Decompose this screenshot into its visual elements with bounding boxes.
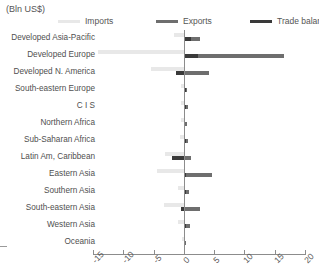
chart-row: C I S: [0, 98, 319, 115]
chart-row: Developed Asia-Pacific: [0, 30, 319, 47]
category-label: Developed Asia-Pacific: [0, 32, 95, 44]
chart-legend: ImportsExportsTrade balance: [58, 14, 316, 28]
chart-row: South-eastern Europe: [0, 81, 319, 98]
category-label: Oceania: [0, 236, 95, 248]
legend-item-trade-balance[interactable]: Trade balance: [250, 14, 319, 28]
legend-item-imports[interactable]: Imports: [58, 14, 113, 28]
legend-item-exports[interactable]: Exports: [156, 14, 212, 28]
bar-trade-balance: [184, 54, 199, 58]
chart-row: Developed Europe: [0, 47, 319, 64]
legend-swatch-icon: [250, 20, 272, 23]
legend-swatch-icon: [58, 20, 80, 23]
category-label: Eastern Asia: [0, 168, 95, 180]
bar-exports: [184, 173, 212, 177]
chart-row: Oceania: [0, 234, 319, 251]
chart-row: Northern Africa: [0, 115, 319, 132]
category-label: Developed N. America: [0, 66, 95, 78]
legend-swatch-icon: [156, 20, 178, 23]
chart-row: Western Asia: [0, 217, 319, 234]
axis-corner-stub: [0, 246, 7, 247]
chart-row: Sub-Saharan Africa: [0, 132, 319, 149]
category-label: Developed Europe: [0, 49, 95, 61]
bar-trade-balance: [172, 156, 184, 160]
x-tick-label: 0: [181, 255, 191, 265]
bar-exports: [184, 156, 191, 160]
category-label: C I S: [0, 100, 95, 112]
category-label: Southern Asia: [0, 185, 95, 197]
bar-imports: [157, 169, 184, 173]
zero-reference-line: [184, 30, 185, 254]
chart-row: South-eastern Asia: [0, 200, 319, 217]
category-label: South-eastern Europe: [0, 83, 95, 95]
bar-exports: [184, 54, 285, 58]
plot-area: Developed Asia-PacificDeveloped EuropeDe…: [0, 30, 319, 252]
bar-imports: [174, 33, 184, 37]
legend-label: Exports: [183, 16, 212, 26]
unit-label: (Bln US$): [6, 4, 45, 14]
category-label: South-eastern Asia: [0, 202, 95, 214]
chart-row: Eastern Asia: [0, 166, 319, 183]
chart-row: Developed N. America: [0, 64, 319, 81]
bar-exports: [184, 207, 200, 211]
chart-row: Southern Asia: [0, 183, 319, 200]
legend-label: Trade balance: [277, 16, 319, 26]
category-label: Sub-Saharan Africa: [0, 134, 95, 146]
bar-trade-balance: [176, 71, 184, 75]
bar-exports: [184, 71, 209, 75]
category-label: Northern Africa: [0, 117, 95, 129]
category-label: Latin Am, Caribbean: [0, 151, 95, 163]
x-tick-label: 5: [211, 255, 221, 265]
bar-imports: [98, 50, 184, 54]
category-label: Western Asia: [0, 219, 95, 231]
x-axis: -15-10-505101520: [0, 254, 319, 280]
chart-row: Latin Am, Caribbean: [0, 149, 319, 166]
trade-bar-chart: (Bln US$) ImportsExportsTrade balance De…: [0, 0, 319, 280]
legend-label: Imports: [85, 16, 113, 26]
